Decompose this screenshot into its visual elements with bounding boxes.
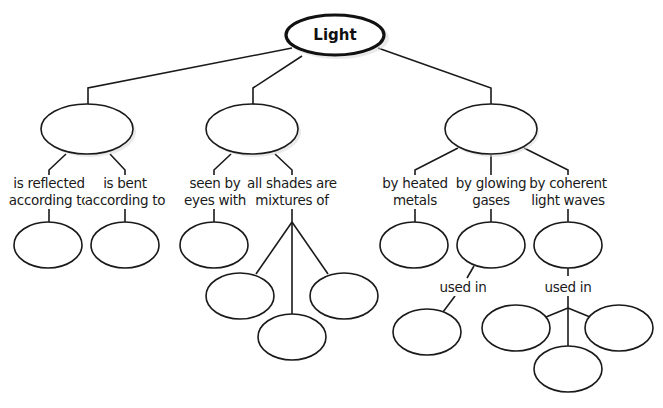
edge-glowing-usedin-bottom [443,296,455,312]
link-label-line: gases [456,192,526,209]
link-label-coherent: by coherent light waves [529,175,607,209]
edge-middle-shades [275,154,292,176]
edge-root-middle [253,56,302,106]
node-shades-1[interactable] [206,273,274,319]
edge-root-right [378,48,491,106]
edge-shades-left [256,222,292,274]
node-glowing-target[interactable] [457,222,525,268]
link-label-line: according to [9,192,89,209]
node-coherent-target[interactable] [534,222,602,268]
link-label-glowing: by glowing gases [456,175,526,209]
link-label-line: seen by [184,175,246,192]
link-label-coherent-used-in: used in [545,279,592,296]
link-label-line: is reflected [9,175,89,192]
link-label-line: by coherent [529,175,607,192]
edge-left-reflected [49,154,66,176]
edge-shades-right [292,222,328,274]
link-label-line: according to [85,192,165,209]
node-branch-left[interactable] [41,104,133,154]
node-branch-right[interactable] [445,104,537,154]
link-label-line: by glowing [456,175,526,192]
link-label-line: is bent [85,175,165,192]
link-label-heated: by heated metals [382,175,447,209]
node-coherent-usedin-1[interactable] [482,305,550,351]
link-label-reflected: is reflected according to [9,175,89,209]
link-label-glowing-used-in: used in [440,279,487,296]
edge-root-left [88,48,292,106]
edge-right-heated [415,148,458,176]
link-label-line: light waves [529,192,607,209]
link-label-line: all shades are [247,175,337,192]
edge-coherent-usedin-right [568,308,590,317]
edge-glowing-usedin-top [467,266,474,278]
edge-coherent-usedin-left [546,308,568,317]
link-label-shades: all shades are mixtures of [247,175,337,209]
link-label-line: by heated [382,175,447,192]
edge-right-coherent [524,148,568,176]
node-bent-target[interactable] [91,222,159,268]
edge-left-bent [110,154,125,176]
link-label-line: metals [382,192,447,209]
link-label-line: eyes with [184,192,246,209]
link-label-bent: is bent according to [85,175,165,209]
node-glowing-usedin[interactable] [393,309,461,355]
edge-middle-seen [214,154,231,176]
link-label-seen-by: seen by eyes with [184,175,246,209]
node-shades-2[interactable] [258,314,326,360]
node-seen-target[interactable] [180,222,248,268]
root-label: Light [313,26,356,44]
link-label-line: mixtures of [247,192,337,209]
node-shades-3[interactable] [310,273,378,319]
concept-map: Light is reflected according to is bent … [0,0,663,408]
node-branch-middle[interactable] [206,104,298,154]
node-heated-target[interactable] [380,222,448,268]
node-reflected-target[interactable] [14,222,82,268]
node-coherent-usedin-3[interactable] [585,305,653,351]
node-coherent-usedin-2[interactable] [534,346,602,392]
